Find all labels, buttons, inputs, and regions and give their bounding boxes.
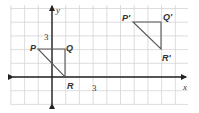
vertex-label-p: P xyxy=(30,43,37,53)
y-axis-label: y xyxy=(55,5,60,15)
x-axis-label: x xyxy=(182,82,187,92)
y-tick-label-3: 3 xyxy=(44,32,49,42)
vertex-label-q-prime: Q' xyxy=(163,12,173,22)
axes: x y xyxy=(13,5,187,104)
vertex-label-p-prime: P' xyxy=(122,13,131,23)
vertex-label-r: R xyxy=(67,81,74,91)
vertex-label-r-prime: R' xyxy=(162,53,171,63)
vertex-label-q: Q xyxy=(66,43,73,53)
x-tick-label-3: 3 xyxy=(92,83,97,93)
coordinate-plane: x y 3 3 P Q R P' Q' R' xyxy=(0,0,199,113)
